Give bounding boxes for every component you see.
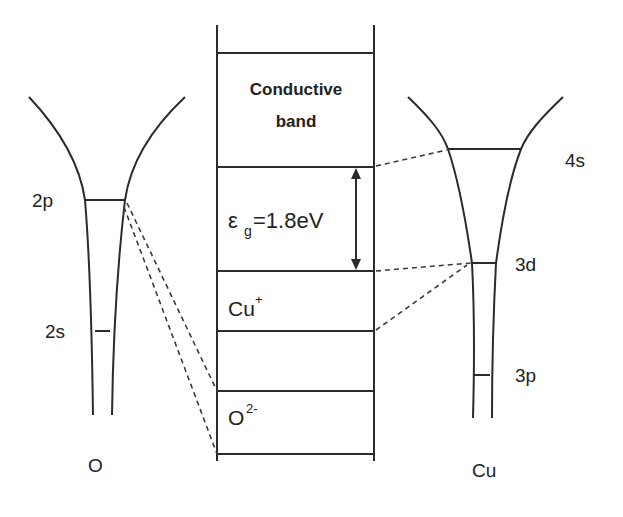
oxygen-well-right-curve [112, 97, 185, 415]
copper-3d-label: 3d [515, 254, 536, 275]
band-gap-arrow [351, 168, 361, 270]
gap-symbol: ε [228, 208, 238, 233]
gap-arrow-down-head-icon [351, 259, 361, 270]
band-box: Conductive band ε g =1.8eV Cu + O 2- [217, 25, 374, 461]
copper-label: Cu [472, 460, 496, 481]
band-gap-label: ε g =1.8eV [228, 208, 324, 239]
gap-subscript: g [244, 223, 252, 239]
dash-3d-to-cu-bottom [376, 265, 467, 330]
oxygen-well-left-curve [29, 97, 93, 415]
oxygen-2p-label: 2p [32, 190, 53, 211]
cu-band-label-charge: + [255, 292, 263, 307]
o-band-label-base: O [228, 406, 244, 429]
cu-band-label-base: Cu [228, 297, 255, 320]
conduction-band-label-line2: band [276, 112, 317, 131]
oxygen-2s-label: 2s [45, 321, 65, 342]
dash-3d-to-cu-top [376, 263, 471, 271]
dash-4s-to-conduction [376, 150, 447, 166]
band-diagram: 2p 2s O Conductive band ε g =1.8eV Cu + [0, 0, 623, 517]
copper-3p-label: 3p [515, 365, 536, 386]
conduction-band-label-line1: Conductive [250, 80, 343, 99]
correlation-lines [124, 150, 471, 454]
copper-4s-label: 4s [565, 150, 585, 171]
oxygen-label: O [88, 455, 103, 476]
cu-band-label: Cu + [228, 292, 263, 320]
dash-2p-to-o-band-top [127, 203, 217, 391]
o-band-label-charge: 2- [246, 401, 258, 416]
copper-well-left-curve [408, 97, 474, 418]
gap-arrow-up-head-icon [351, 168, 361, 179]
oxygen-well: 2p 2s O [29, 97, 185, 476]
gap-value: =1.8eV [253, 208, 324, 233]
dash-2p-to-o-band-bottom [124, 207, 217, 454]
copper-well: 4s 3d 3p Cu [408, 97, 585, 481]
o-band-label: O 2- [228, 401, 258, 429]
